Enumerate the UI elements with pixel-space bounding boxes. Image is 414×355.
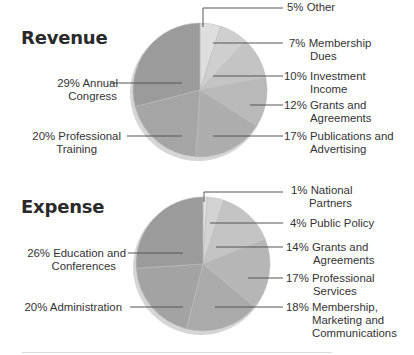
label-grants-exp-line1: 14% Grants and xyxy=(286,241,368,254)
label-national-line1: 1% National xyxy=(291,184,352,197)
label-training-line1: 20% Professional xyxy=(32,130,121,143)
label-membership-exp-line1: 18% Membership, xyxy=(286,301,378,314)
label-national-line2: Partners xyxy=(309,197,352,210)
leader-line-other xyxy=(203,8,283,27)
revenue-title: Revenue xyxy=(21,27,107,48)
label-congress-line1: 29% Annual xyxy=(57,77,118,90)
label-training-line2: Training xyxy=(56,143,97,156)
label-services-line1: 17% Professional xyxy=(286,272,375,285)
label-publications-line1: 17% Publications and xyxy=(284,130,394,143)
label-publications-line2: Advertising xyxy=(310,143,366,156)
expense-pie-chart xyxy=(133,197,270,335)
revenue-pie-chart xyxy=(130,23,267,161)
label-membership-line2: Dues xyxy=(310,50,337,63)
label-investment-line1: 10% Investment xyxy=(284,70,366,83)
label-investment-line2: Income xyxy=(310,83,347,96)
label-membership-exp-line3: Communications xyxy=(312,327,397,340)
label-admin: 20% Administration xyxy=(24,301,122,314)
label-education-line1: 26% Education and xyxy=(27,247,126,260)
label-grants-line2: Agreements xyxy=(310,112,371,125)
pie-slice-education-and-conferences xyxy=(136,197,203,268)
label-membership-exp-line2: Marketing and xyxy=(312,314,384,327)
label-congress-line2: Congress xyxy=(68,90,117,103)
label-policy: 4% Public Policy xyxy=(290,217,374,230)
label-services-line2: Services xyxy=(313,285,357,298)
expense-title: Expense xyxy=(21,196,104,217)
bottom-divider xyxy=(22,352,332,353)
label-membership-line1: 7% Membership xyxy=(289,37,371,50)
label-grants-line1: 12% Grants and xyxy=(284,99,366,112)
label-education-line2: Conferences xyxy=(51,260,116,273)
label-grants-exp-line2: Agreements xyxy=(313,254,374,267)
label-other: 5% Other xyxy=(287,1,335,14)
